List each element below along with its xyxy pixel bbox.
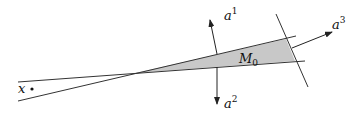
label-x: x <box>18 81 26 96</box>
label-a3: a3 <box>332 15 346 32</box>
vector-a3-arrow <box>292 32 332 48</box>
label-a2-sup: 2 <box>232 94 238 104</box>
line-lower <box>18 61 305 82</box>
label-a1-sup: 1 <box>232 6 238 16</box>
label-a2-main: a <box>224 96 232 111</box>
point-x-dot <box>30 87 33 90</box>
line-upper <box>18 36 296 101</box>
diagram-canvas: x M0 a1 a2 a3 <box>0 0 360 119</box>
label-m0-sub: 0 <box>252 58 258 68</box>
vector-a1-arrow <box>210 20 217 54</box>
label-a1-main: a <box>224 8 232 23</box>
label-a3-main: a <box>332 17 340 32</box>
label-a1: a1 <box>224 6 238 23</box>
label-a2: a2 <box>224 94 238 111</box>
label-m0-main: M <box>238 51 253 66</box>
diagram-svg: x M0 a1 a2 a3 <box>0 0 360 119</box>
label-a3-sup: 3 <box>340 15 346 25</box>
